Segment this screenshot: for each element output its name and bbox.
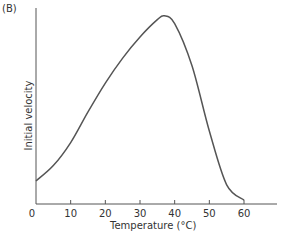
velocity-curve (36, 16, 244, 201)
x-tick-label: 60 (234, 208, 254, 219)
x-tick-label: 0 (22, 208, 42, 219)
x-tick-label: 20 (95, 208, 115, 219)
chart-plot-area (0, 0, 281, 236)
x-axis-ticks (71, 200, 244, 204)
x-tick-label: 50 (199, 208, 219, 219)
x-tick-label: 40 (165, 208, 185, 219)
x-tick-label: 10 (61, 208, 81, 219)
x-tick-label: 30 (130, 208, 150, 219)
